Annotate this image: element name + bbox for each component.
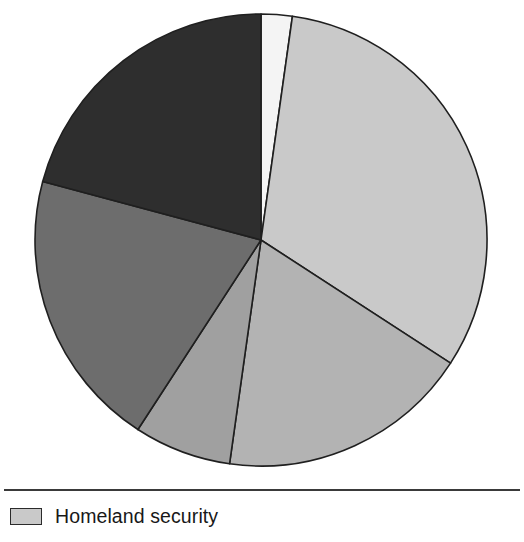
legend-item-label: Homeland security: [55, 504, 218, 528]
pie-svg: [0, 0, 524, 480]
legend-item[interactable]: Homeland security: [10, 504, 510, 528]
pie-slice-group: [35, 14, 487, 466]
legend-divider: [4, 489, 520, 491]
legend-swatch-icon: [10, 508, 42, 525]
chart-legend: Homeland security: [10, 504, 510, 528]
pie-plot-area: [0, 0, 524, 480]
pie-chart-figure: Homeland security: [0, 0, 524, 542]
